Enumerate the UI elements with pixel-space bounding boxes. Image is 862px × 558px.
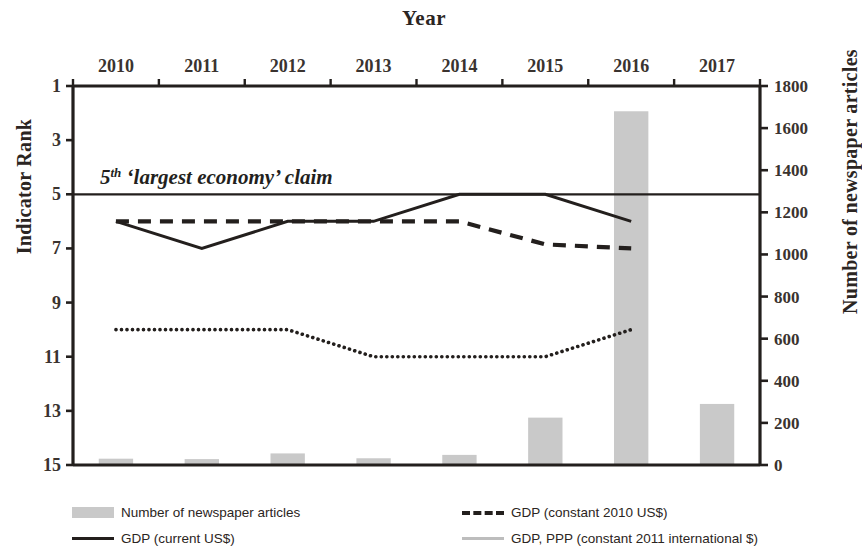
legend-label: GDP (constant 2010 US$) bbox=[511, 506, 668, 520]
x-tick-label-2010: 2010 bbox=[98, 56, 134, 76]
solid-line-icon bbox=[72, 537, 114, 540]
right-tick-label-1400: 1400 bbox=[774, 161, 808, 180]
right-tick-label-800: 800 bbox=[774, 288, 800, 307]
right-tick-label-0: 0 bbox=[774, 456, 783, 475]
left-tick-label-1: 1 bbox=[52, 76, 61, 96]
bar-2012 bbox=[271, 453, 305, 465]
left-tick-label-11: 11 bbox=[44, 347, 61, 367]
legend-item-newspaper-articles[interactable]: Number of newspaper articles bbox=[72, 506, 300, 520]
x-tick-label-2014: 2014 bbox=[441, 56, 477, 76]
legend-item-gdp-constant[interactable]: GDP (constant 2010 US$) bbox=[462, 506, 668, 520]
chart-legend: Number of newspaper articles GDP (curren… bbox=[72, 500, 848, 558]
bar-2017 bbox=[700, 404, 734, 465]
dashed-line-icon bbox=[462, 511, 504, 515]
legend-label: Number of newspaper articles bbox=[121, 506, 300, 520]
legend-label: GDP, PPP (constant 2011 international $) bbox=[511, 532, 758, 546]
left-tick-label-3: 3 bbox=[52, 130, 61, 150]
x-tick-label-2012: 2012 bbox=[270, 56, 306, 76]
chart-plot-area: 2010201120122013201420152016201713579111… bbox=[0, 0, 848, 500]
right-tick-label-1600: 1600 bbox=[774, 119, 808, 138]
claim-annotation-label: 5th ‘largest economy’ claim bbox=[100, 165, 333, 189]
right-tick-label-1800: 1800 bbox=[774, 77, 808, 96]
x-tick-label-2017: 2017 bbox=[699, 56, 735, 76]
left-tick-label-5: 5 bbox=[52, 184, 61, 204]
right-tick-label-1200: 1200 bbox=[774, 203, 808, 222]
bar-2016 bbox=[614, 111, 648, 465]
chart-svg: 2010201120122013201420152016201713579111… bbox=[0, 0, 848, 500]
left-tick-label-7: 7 bbox=[52, 238, 61, 258]
left-tick-label-13: 13 bbox=[43, 401, 61, 421]
right-tick-label-1000: 1000 bbox=[774, 245, 808, 264]
legend-label: GDP (current US$) bbox=[121, 532, 235, 546]
bar-swatch-icon bbox=[72, 507, 114, 518]
x-tick-label-2016: 2016 bbox=[613, 56, 649, 76]
right-tick-label-200: 200 bbox=[774, 414, 800, 433]
left-tick-label-15: 15 bbox=[43, 455, 61, 475]
x-tick-label-2011: 2011 bbox=[184, 56, 219, 76]
legend-item-gdp-current[interactable]: GDP (current US$) bbox=[72, 532, 235, 546]
bar-2015 bbox=[528, 418, 562, 465]
x-tick-label-2013: 2013 bbox=[356, 56, 392, 76]
series-line-dotted bbox=[116, 330, 631, 357]
right-tick-label-600: 600 bbox=[774, 330, 800, 349]
right-tick-label-400: 400 bbox=[774, 372, 800, 391]
dotted-line-icon bbox=[462, 537, 504, 540]
left-tick-label-9: 9 bbox=[52, 293, 61, 313]
x-tick-label-2015: 2015 bbox=[527, 56, 563, 76]
legend-item-gdp-ppp[interactable]: GDP, PPP (constant 2011 international $) bbox=[462, 532, 758, 546]
